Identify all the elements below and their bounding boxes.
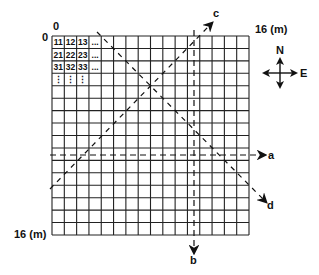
x-end-label: 16 (m): [255, 23, 288, 35]
cell-label: ...: [92, 62, 99, 72]
cell-label: 21: [53, 50, 63, 60]
sampling-grid-diagram: 0 0 16 (m) 16 (m) 111213...212223...3132…: [0, 0, 319, 275]
transect-b-label: b: [190, 254, 197, 266]
cell-label: ...: [92, 37, 99, 47]
cell-label: ⋮: [54, 75, 63, 85]
cell-label: 12: [66, 37, 76, 47]
cell-label: ...: [92, 50, 99, 60]
transect-a-label: a: [268, 149, 275, 161]
cell-label: ⋮: [66, 75, 75, 85]
transect-d-label: d: [267, 199, 274, 211]
y-end-label: 16 (m): [14, 228, 47, 240]
cell-label: 13: [78, 37, 88, 47]
cell-label: 23: [78, 50, 88, 60]
cell-label: ⋮: [78, 75, 87, 85]
transect-c-label: c: [213, 7, 219, 19]
origin-label-top: 0: [53, 20, 59, 32]
cell-label: 22: [66, 50, 76, 60]
compass-rose-icon: N E: [262, 44, 307, 89]
transect-d: d: [97, 32, 274, 211]
cell-label: 33: [78, 62, 88, 72]
cell-label: 31: [53, 62, 63, 72]
compass-north-label: N: [276, 44, 284, 56]
cell-label: 32: [66, 62, 76, 72]
compass-east-label: E: [300, 67, 307, 79]
cell-label: 11: [54, 37, 63, 47]
origin-label-left: 0: [42, 31, 48, 43]
